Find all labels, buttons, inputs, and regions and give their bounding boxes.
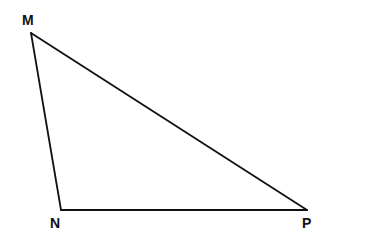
edge-MN bbox=[31, 33, 61, 210]
vertex-label-n: N bbox=[50, 215, 60, 231]
edge-PM bbox=[31, 33, 307, 210]
vertex-label-m: M bbox=[22, 12, 34, 28]
vertex-label-p: P bbox=[302, 215, 311, 231]
triangle-diagram: M N P bbox=[0, 0, 384, 243]
